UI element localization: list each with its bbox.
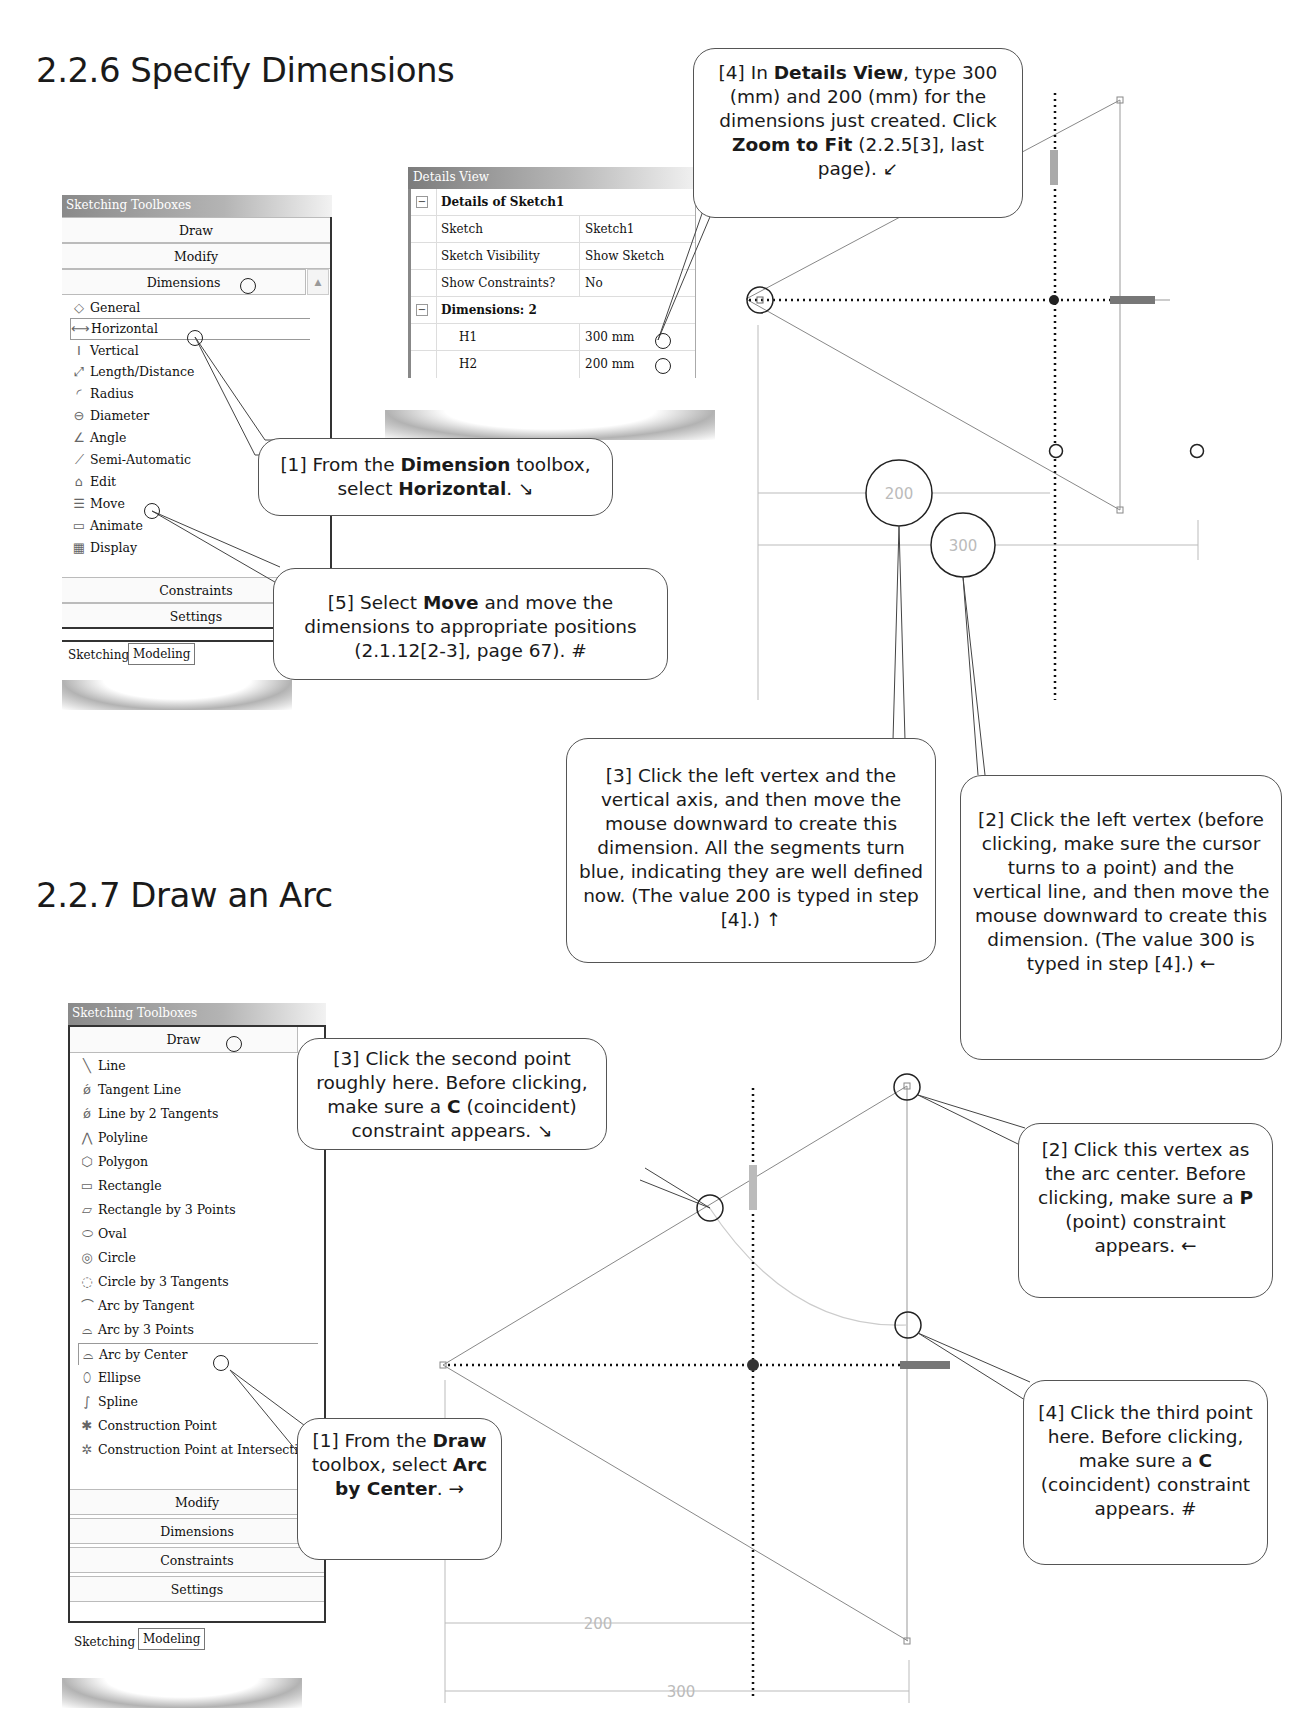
general-dimension-icon: ◇ xyxy=(70,300,88,316)
page-shadow-decoration xyxy=(385,410,715,440)
tool-rectangle[interactable]: ▭Rectangle xyxy=(78,1175,162,1197)
rectangle-icon: ▭ xyxy=(78,1178,96,1194)
marker-move-item xyxy=(144,503,160,519)
semi-automatic-icon: ⟋ xyxy=(70,452,88,468)
edit-icon: ⌂ xyxy=(70,474,88,490)
callout-step2-300-dimension: [2] Click the left vertex (before clicki… xyxy=(960,775,1282,1060)
tool-arc-by-3-points[interactable]: ⌓Arc by 3 Points xyxy=(78,1319,194,1341)
dimension-row-h2[interactable]: H2 200 mm xyxy=(411,351,695,378)
tool-semi-automatic[interactable]: ⟋Semi-Automatic xyxy=(70,449,191,471)
marker-h1 xyxy=(655,333,671,349)
callout-step3-200-dimension: [3] Click the left vertex and the vertic… xyxy=(566,738,936,963)
horizontal-dimension-icon: ⟷ xyxy=(71,321,89,337)
tool-angle[interactable]: ∠Angle xyxy=(70,427,126,449)
tool-polyline[interactable]: ⋀Polyline xyxy=(78,1127,148,1149)
h1-value-field[interactable]: 300 mm xyxy=(580,324,695,350)
tab-modeling[interactable]: Modeling xyxy=(138,1628,205,1650)
h2-value-field[interactable]: 200 mm xyxy=(580,351,695,378)
marker-draw-header xyxy=(226,1036,242,1052)
toolbox-header-dimensions[interactable]: Dimensions xyxy=(62,269,306,295)
tool-ellipse[interactable]: ⬯Ellipse xyxy=(78,1367,141,1389)
table-row[interactable]: Sketch Visibility Show Sketch xyxy=(411,243,695,270)
radius-icon: ◜ xyxy=(70,386,88,402)
tangent-line-icon: ǿ xyxy=(78,1082,96,1098)
scroll-up-button[interactable]: ▲ xyxy=(307,269,329,295)
tool-move[interactable]: ☰Move xyxy=(70,493,125,515)
tool-oval[interactable]: ⬭Oval xyxy=(78,1223,127,1245)
arc-by-center-icon: ⌓ xyxy=(79,1347,97,1363)
circle-by-3-tangents-icon: ◌ xyxy=(78,1274,96,1290)
arc-by-3-points-icon: ⌓ xyxy=(78,1322,96,1338)
tab-sketching[interactable]: Sketching xyxy=(64,645,133,667)
circle-icon: ◎ xyxy=(78,1250,96,1266)
tool-display[interactable]: ▦Display xyxy=(70,537,137,559)
table-row[interactable]: Sketch Sketch1 xyxy=(411,216,695,243)
tool-line[interactable]: ╲Line xyxy=(78,1055,126,1077)
angle-icon: ∠ xyxy=(70,430,88,446)
toolbox-header-constraints[interactable]: Constraints xyxy=(70,1547,324,1573)
length-distance-icon: ⤢ xyxy=(70,364,88,380)
collapse-icon[interactable]: − xyxy=(416,196,428,208)
tool-circle-by-3-tangents[interactable]: ◌Circle by 3 Tangents xyxy=(78,1271,229,1293)
dim-label-300: 300 xyxy=(667,1683,696,1701)
tool-rectangle-by-3-points[interactable]: ▱Rectangle by 3 Points xyxy=(78,1199,236,1221)
tool-construction-point[interactable]: ✱Construction Point xyxy=(78,1415,217,1437)
ellipse-icon: ⬯ xyxy=(78,1370,96,1386)
marker-dimensions-header xyxy=(240,278,256,294)
diameter-icon: ⊖ xyxy=(70,408,88,424)
move-icon: ☰ xyxy=(70,496,88,512)
toolbox-header-modify[interactable]: Modify xyxy=(62,243,330,269)
details-table: − Details of Sketch1 Sketch Sketch1 Sket… xyxy=(408,189,696,378)
details-view-title: Details View xyxy=(408,167,696,189)
construction-point-intersection-icon: ✲ xyxy=(78,1442,96,1458)
marker-horizontal-item xyxy=(187,330,203,346)
polygon-icon: ⬡ xyxy=(78,1154,96,1170)
line-icon: ╲ xyxy=(78,1058,96,1074)
tool-spline[interactable]: ∫Spline xyxy=(78,1391,138,1413)
section-title-draw-an-arc: 2.2.7 Draw an Arc xyxy=(36,875,333,915)
sketching-toolbox-draw: Sketching Toolboxes Draw ╲Line ǿTangent … xyxy=(68,1003,326,1643)
callout-step1-arc-by-center: [1] From the Draw toolbox, select Arc by… xyxy=(297,1418,502,1560)
vertical-dimension-icon: Ⅰ xyxy=(70,343,88,359)
collapse-icon[interactable]: − xyxy=(416,304,428,316)
toolbox-header-draw[interactable]: Draw xyxy=(62,217,330,243)
toolbox-frame: Draw ╲Line ǿTangent Line ǿLine by 2 Tang… xyxy=(68,1025,326,1623)
tool-edit[interactable]: ⌂Edit xyxy=(70,471,116,493)
tab-sketching[interactable]: Sketching xyxy=(70,1632,139,1654)
tool-radius[interactable]: ◜Radius xyxy=(70,383,134,405)
tool-general[interactable]: ◇General xyxy=(70,297,140,319)
callout-step3-second-point: [3] Click the second point roughly here.… xyxy=(297,1038,607,1150)
callout-step4-details-view: [4] In Details View, type 300 (mm) and 2… xyxy=(693,48,1023,218)
tool-length-distance[interactable]: ⤢Length/Distance xyxy=(70,361,194,383)
spline-icon: ∫ xyxy=(78,1394,96,1410)
dim-label-300: 300 xyxy=(949,537,978,555)
tool-construction-point-at-intersection[interactable]: ✲Construction Point at Intersectio xyxy=(78,1439,318,1461)
details-view-panel: Details View − Details of Sketch1 Sketch… xyxy=(408,167,698,387)
tool-animate[interactable]: ▭Animate xyxy=(70,515,143,537)
toolbox-header-settings[interactable]: Settings xyxy=(70,1576,324,1602)
page-shadow-decoration xyxy=(62,680,292,710)
polyline-icon: ⋀ xyxy=(78,1130,96,1146)
tool-arc-by-center[interactable]: ⌓Arc by Center xyxy=(78,1343,318,1365)
dimension-row-h1[interactable]: H1 300 mm xyxy=(411,324,695,351)
rectangle-by-3-points-icon: ▱ xyxy=(78,1202,96,1218)
callout-step4-third-point: [4] Click the third point here. Before c… xyxy=(1023,1380,1268,1565)
tool-line-by-2-tangents[interactable]: ǿLine by 2 Tangents xyxy=(78,1103,218,1125)
section-title-specify-dimensions: 2.2.6 Specify Dimensions xyxy=(36,50,454,90)
toolbox-tabs: Sketching Modeling xyxy=(68,1628,326,1654)
tool-vertical[interactable]: ⅠVertical xyxy=(70,340,139,362)
tool-arc-by-tangent[interactable]: ⌒Arc by Tangent xyxy=(78,1295,194,1317)
tool-polygon[interactable]: ⬡Polygon xyxy=(78,1151,148,1173)
oval-icon: ⬭ xyxy=(78,1226,96,1242)
tool-tangent-line[interactable]: ǿTangent Line xyxy=(78,1079,181,1101)
tool-diameter[interactable]: ⊖Diameter xyxy=(70,405,149,427)
table-row[interactable]: Show Constraints? No xyxy=(411,270,695,297)
line-by-2-tangents-icon: ǿ xyxy=(78,1106,96,1122)
toolbox-header-draw[interactable]: Draw xyxy=(70,1027,298,1053)
tool-circle[interactable]: ◎Circle xyxy=(78,1247,136,1269)
group-row-dimensions: − Dimensions: 2 xyxy=(411,297,695,324)
tab-modeling[interactable]: Modeling xyxy=(128,643,195,665)
arc-by-tangent-icon: ⌒ xyxy=(78,1298,96,1314)
toolbox-header-dimensions[interactable]: Dimensions xyxy=(70,1518,324,1544)
toolbox-header-modify[interactable]: Modify xyxy=(70,1489,324,1515)
